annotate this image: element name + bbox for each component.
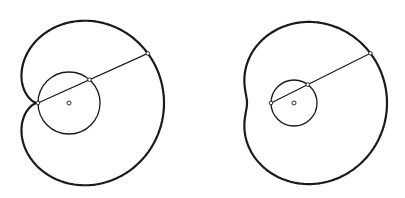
diagram-canvas xyxy=(0,0,405,198)
curve-point xyxy=(369,51,373,55)
limacon-figure-right xyxy=(244,22,387,184)
limacon-curve xyxy=(21,21,164,186)
center-point xyxy=(292,101,296,105)
ray-line xyxy=(38,53,148,103)
limacon-figure-left xyxy=(21,21,164,186)
circle-point xyxy=(88,78,92,82)
pole-point xyxy=(269,101,273,105)
pole-point xyxy=(36,101,40,105)
center-point xyxy=(67,101,71,105)
limacon-curve xyxy=(244,22,387,184)
curve-point xyxy=(146,52,150,56)
circle-point xyxy=(306,83,310,87)
ray-line xyxy=(271,53,370,103)
